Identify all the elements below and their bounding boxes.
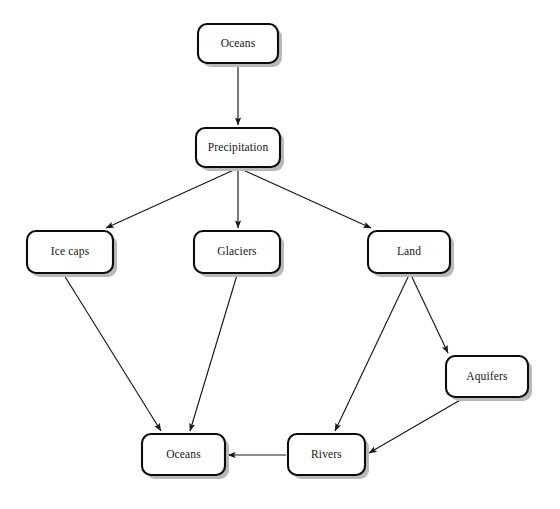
node-label: Oceans	[221, 37, 256, 49]
edge-line	[369, 399, 462, 453]
node-rivers[interactable]: Rivers	[288, 434, 369, 479]
edge-land-to-rivers	[335, 275, 409, 431]
node-label: Rivers	[311, 448, 342, 460]
edge-ice-caps-to-oceans-bottom	[64, 275, 161, 431]
node-aquifers[interactable]: Aquifers	[446, 356, 532, 401]
node-label: Glaciers	[217, 245, 257, 257]
edge-precipitation-to-ice-caps	[106, 169, 236, 228]
edge-line	[411, 275, 448, 353]
water-cycle-diagram: OceansPrecipitationIce capsGlaciersLandA…	[0, 0, 560, 509]
node-land[interactable]: Land	[368, 231, 454, 277]
node-label: Ice caps	[51, 245, 90, 258]
edge-land-to-aquifers	[411, 275, 448, 353]
node-precipitation[interactable]: Precipitation	[196, 128, 284, 171]
edge-line	[64, 275, 161, 431]
nodes-layer: OceansPrecipitationIce capsGlaciersLandA…	[27, 24, 532, 479]
node-oceans-bottom[interactable]: Oceans	[142, 434, 229, 479]
node-glaciers[interactable]: Glaciers	[194, 231, 284, 277]
node-oceans-top[interactable]: Oceans	[198, 24, 282, 67]
edge-line	[190, 275, 237, 431]
node-label: Aquifers	[466, 370, 508, 383]
node-ice-caps[interactable]: Ice caps	[27, 231, 117, 277]
node-label: Oceans	[166, 448, 201, 460]
node-label: Land	[397, 245, 421, 257]
edge-glaciers-to-oceans-bottom	[190, 275, 237, 431]
node-label: Precipitation	[208, 141, 269, 154]
edge-precipitation-to-land	[241, 169, 371, 228]
edge-line	[335, 275, 409, 431]
edge-line	[106, 169, 236, 228]
edge-aquifers-to-rivers	[369, 399, 462, 453]
edge-line	[241, 169, 371, 228]
